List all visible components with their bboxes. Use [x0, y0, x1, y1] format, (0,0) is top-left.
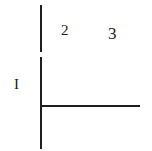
vertical-line-upper	[40, 5, 42, 52]
horizontal-line	[41, 105, 140, 107]
region-label-3: 3	[108, 25, 117, 42]
vertical-line-lower	[40, 57, 42, 149]
region-label-1: I	[14, 77, 19, 92]
region-label-2: 2	[61, 23, 69, 38]
